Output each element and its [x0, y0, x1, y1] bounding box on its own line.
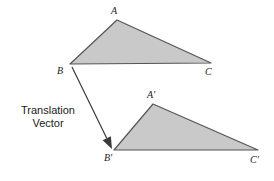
triangle-abc	[70, 20, 211, 64]
caption-line-2: Vector	[10, 117, 86, 130]
diagram-canvas	[0, 0, 274, 181]
triangle-a-prime-b-prime-c-prime	[114, 104, 258, 150]
vertex-label-a: A	[111, 6, 117, 16]
arrowhead-icon	[103, 136, 112, 149]
vertex-label-b: B	[57, 66, 63, 76]
vertex-label-c-prime: C'	[250, 155, 259, 165]
vertex-label-c: C	[205, 67, 212, 77]
caption-line-1: Translation	[10, 104, 86, 117]
vertex-label-b-prime: B'	[104, 153, 112, 163]
vertex-label-a-prime: A'	[147, 90, 155, 100]
translation-diagram: A B C A' B' C' Translation Vector	[0, 0, 274, 181]
translation-vector-caption: Translation Vector	[10, 104, 86, 130]
